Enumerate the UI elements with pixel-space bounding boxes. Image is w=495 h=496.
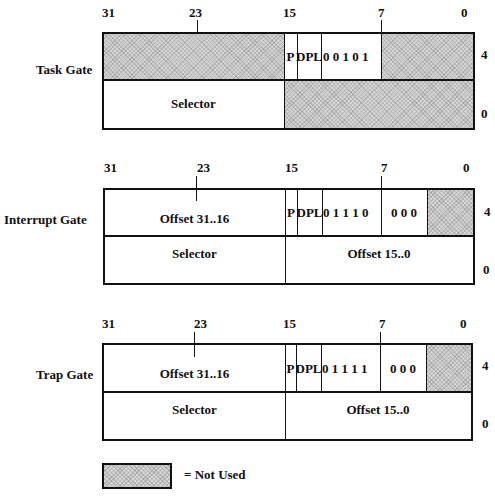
field-divider [381,189,382,236]
bit-label-23: 23 [197,160,210,176]
word-divider [103,235,475,237]
bit-label-7: 7 [379,316,386,332]
offset-label-0: 0 [482,416,489,432]
bit-label-0: 0 [460,316,467,332]
bit-label-15: 15 [283,316,296,332]
field-divider [285,345,286,440]
bit-label-15: 15 [283,5,296,21]
bit-label-23: 23 [194,316,207,332]
gate-label: Interrupt Gate [4,212,87,228]
bit-label-7: 7 [381,160,388,176]
field-divider [381,33,382,80]
legend-label: = Not Used [184,467,246,483]
field-divider [297,33,298,80]
not-used-swatch [102,463,172,489]
offset-label-4: 4 [481,47,488,63]
word-divider [102,391,473,393]
bit-7-tick [381,176,382,188]
field-divider [321,345,322,392]
offset-label-4: 4 [482,358,489,374]
field-divider [321,33,322,80]
field-divider [296,345,297,392]
bit-label-0: 0 [461,5,468,21]
offset-label-0: 0 [483,262,490,278]
bit-label-23: 23 [189,5,202,21]
word-divider [102,79,475,81]
field-divider [297,189,298,236]
bit-label-15: 15 [285,160,298,176]
bit-label-31: 31 [102,316,115,332]
gate-label: Task Gate [36,62,92,78]
field-divider [427,189,428,236]
bit-label-31: 31 [102,5,115,21]
gate-frame [102,32,475,130]
offset-label-0: 0 [481,106,488,122]
field-divider [380,345,381,392]
field-divider [285,189,286,284]
field-divider [426,345,427,392]
field-divider [284,33,285,129]
field-divider [322,189,323,236]
offset-label-4: 4 [484,204,491,220]
bit-label-0: 0 [463,160,470,176]
bit-label-31: 31 [104,160,117,176]
gate-label: Trap Gate [36,367,93,383]
bit-label-7: 7 [378,5,385,21]
